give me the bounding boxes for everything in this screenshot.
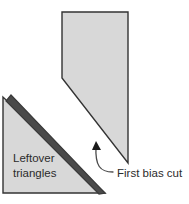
leader-arrowhead <box>92 141 101 150</box>
diagram-canvas: Leftover triangles First bias cut <box>0 0 189 204</box>
leftover-triangles-label-line2: triangles <box>13 167 57 179</box>
first-bias-cut-label: First bias cut <box>117 167 183 179</box>
leftover-triangles-label-line1: Leftover <box>13 152 55 164</box>
bias-cut-figure: Leftover triangles First bias cut <box>0 0 189 204</box>
main-fabric-piece <box>62 12 128 163</box>
